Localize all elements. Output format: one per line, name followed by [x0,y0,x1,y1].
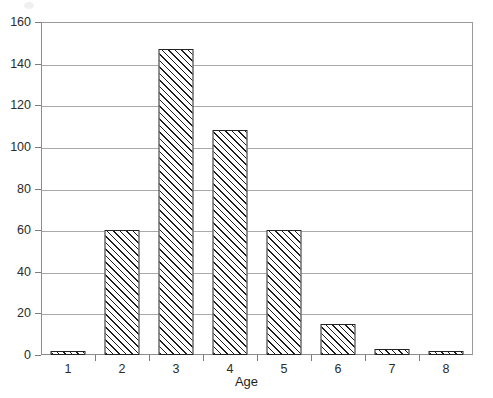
bar-slot [257,22,311,355]
x-axis-tick [311,355,312,361]
bar-slot [149,22,203,355]
bar [267,230,302,355]
y-axis-tick-label: 100 [10,141,31,154]
bar-chart: 020406080100120140160 12345678 Age [0,0,493,398]
bar-slot [203,22,257,355]
y-axis-tick-label: 40 [17,266,31,279]
x-axis-title: Age [0,374,493,389]
y-axis-tick-label: 160 [10,16,31,29]
bar-slot [41,22,95,355]
y-axis-tick-label: 60 [17,224,31,237]
y-axis-tick-label: 0 [24,349,31,362]
bar-slot [311,22,365,355]
y-axis-tick-labels: 020406080100120140160 [0,22,31,355]
bar [213,130,248,355]
scan-artifact [24,2,34,9]
x-axis-tick [365,355,366,361]
x-axis-tick [257,355,258,361]
bar-series [41,22,473,355]
y-axis-tick-label: 120 [10,99,31,112]
bar [105,230,140,355]
bar-slot [419,22,473,355]
bar-slot [365,22,419,355]
y-axis-tick-label: 80 [17,183,31,196]
y-axis-tick-label: 20 [17,307,31,320]
y-axis-tick-label: 140 [10,58,31,71]
x-axis-tick [95,355,96,361]
bar [321,324,356,355]
x-axis-tick [419,355,420,361]
bar [159,49,194,355]
bar-slot [95,22,149,355]
x-axis-tick [203,355,204,361]
x-axis-tick [149,355,150,361]
